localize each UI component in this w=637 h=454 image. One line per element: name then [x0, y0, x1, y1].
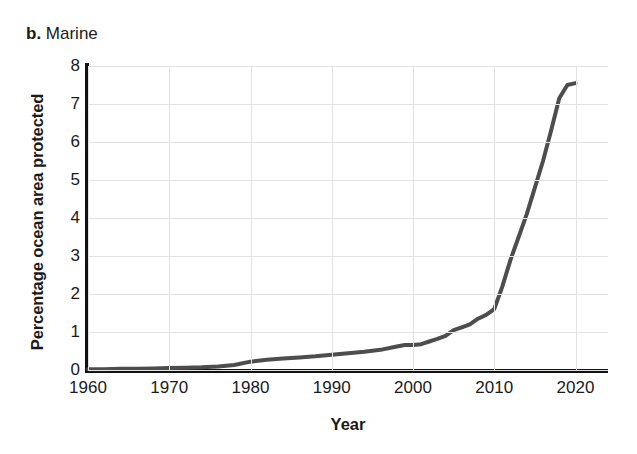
y-tick-label: 5: [40, 171, 80, 188]
y-tick-label: 6: [40, 133, 80, 150]
y-tick-label: 2: [40, 285, 80, 302]
gridline-vertical: [169, 66, 170, 370]
x-tick-label: 2020: [536, 379, 616, 396]
x-tick-labels: 1960197019801990200020102020: [88, 379, 608, 403]
gridline-vertical: [413, 66, 414, 370]
marine-protected-area-chart: b. Marine Percentage ocean area protecte…: [0, 0, 637, 454]
x-tick-label: 2010: [454, 379, 534, 396]
gridline-vertical: [494, 66, 495, 370]
gridline-horizontal: [88, 294, 608, 295]
y-tick-label: 7: [40, 95, 80, 112]
x-tick-label: 2000: [373, 379, 453, 396]
gridline-horizontal: [88, 332, 608, 333]
y-tick-labels: 012345678: [34, 66, 80, 370]
gridline-horizontal: [88, 218, 608, 219]
gridline-horizontal: [88, 142, 608, 143]
gridline-horizontal: [88, 180, 608, 181]
gridline-vertical: [576, 66, 577, 370]
gridline-horizontal: [88, 104, 608, 105]
y-tick-label: 3: [40, 247, 80, 264]
panel-tag: b.: [26, 24, 41, 43]
panel-title: b. Marine: [26, 24, 98, 44]
panel-name: Marine: [46, 24, 98, 43]
y-tick-label: 4: [40, 209, 80, 226]
x-tick-label: 1970: [129, 379, 209, 396]
x-tick-label: 1960: [48, 379, 128, 396]
x-tick-label: 1990: [292, 379, 372, 396]
y-tick-label: 8: [40, 57, 80, 74]
gridline-horizontal: [88, 256, 608, 257]
y-tick-label: 1: [40, 323, 80, 340]
y-tick-label: 0: [40, 361, 80, 378]
plot-area: [88, 66, 608, 370]
gridline-vertical: [251, 66, 252, 370]
x-axis-title: Year: [88, 415, 608, 434]
x-tick-label: 1980: [211, 379, 291, 396]
gridline-vertical: [88, 66, 89, 370]
gridline-vertical: [332, 66, 333, 370]
gridline-horizontal: [88, 66, 608, 67]
gridline-horizontal: [88, 370, 608, 371]
